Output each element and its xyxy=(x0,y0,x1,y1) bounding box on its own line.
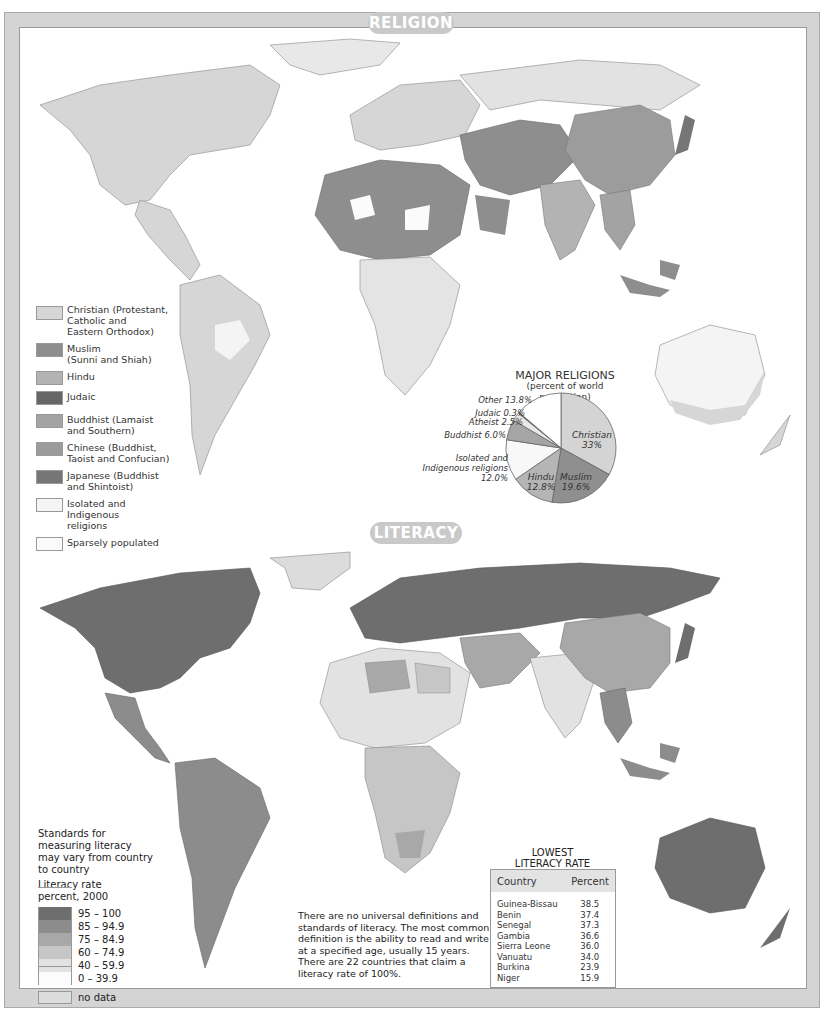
literacy-legend-note: Standards for measuring literacy may var… xyxy=(38,828,153,876)
swatch-chinese xyxy=(36,442,63,456)
pie-inlabel-christian: Christian33% xyxy=(567,430,617,450)
legend-item-hindu: Hindu xyxy=(36,371,176,385)
legend-item-chinese: Chinese (Buddhist,Taoist and Confucian) xyxy=(36,442,176,464)
pie-label-other: Other 13.8% xyxy=(462,395,532,405)
table-row: Sierra Leone36.0 xyxy=(491,941,616,952)
legend-item-judaic: Judaic xyxy=(36,391,176,405)
swatch-judaic xyxy=(36,391,63,405)
legend-item-75-85: 75 – 84.9 xyxy=(38,933,153,946)
table-row: Senegal37.3 xyxy=(491,920,616,931)
legend-item-85-95: 85 – 94.9 xyxy=(38,920,153,933)
swatch-muslim xyxy=(36,343,63,357)
legend-item-no-data: no data xyxy=(38,991,153,1004)
table-row: Niger15.9 xyxy=(491,973,616,988)
legend-item-muslim: Muslim(Sunni and Shiah) xyxy=(36,343,176,365)
literacy-note: There are no universal definitions and s… xyxy=(298,910,498,979)
table-header-row: Country Percent xyxy=(491,870,616,893)
table-row: Guinea-Bissau38.5 xyxy=(491,899,616,910)
legend-item-0-40: 0 – 39.9 xyxy=(38,972,153,985)
swatch-christian xyxy=(36,306,63,320)
pie-label-isolated: Isolated and Indigenous religions 12.0% xyxy=(414,453,508,483)
legend-item-buddhist: Buddhist (Lamaistand Southern) xyxy=(36,414,176,436)
table-row: Burkina23.9 xyxy=(491,962,616,973)
swatch-hindu xyxy=(36,371,63,385)
legend-item-40-60: 40 – 59.9 xyxy=(38,959,153,972)
literacy-legend-title: Literacy ratepercent, 2000 xyxy=(38,879,153,903)
religion-legend: Christian (Protestant,Catholic andEaster… xyxy=(36,304,176,557)
swatch-japanese xyxy=(36,470,63,484)
swatch-buddhist xyxy=(36,414,63,428)
pie-label-buddhist: Buddhist 6.0% xyxy=(440,430,506,440)
legend-item-95-100: 95 – 100 xyxy=(38,907,153,920)
legend-item-60-75: 60 – 74.9 xyxy=(38,946,153,959)
lowest-literacy-table: Country Percent Guinea-Bissau38.5 Benin3… xyxy=(490,869,616,988)
pie-label-atheist: Atheist 2.5% xyxy=(458,417,523,427)
literacy-legend: Standards for measuring literacy may var… xyxy=(38,828,153,1004)
pie-inlabel-hindu: Hindu12.8% xyxy=(523,472,559,492)
legend-item-christian: Christian (Protestant,Catholic andEaster… xyxy=(36,304,176,337)
pie-inlabel-muslim: Muslim19.6% xyxy=(556,472,596,492)
header-percent: Percent xyxy=(565,870,616,893)
lowest-literacy-title: LOWESTLITERACY RATE xyxy=(490,847,615,869)
legend-item-isolated: Isolated and Indigenousreligions xyxy=(36,498,176,531)
religion-title: RELIGION xyxy=(368,12,454,34)
table-row: Vanuatu34.0 xyxy=(491,952,616,963)
table-row: Gambia36.6 xyxy=(491,931,616,942)
table-row: Benin37.4 xyxy=(491,910,616,921)
swatch-isolated xyxy=(36,498,63,512)
legend-item-japanese: Japanese (Buddhistand Shintoist) xyxy=(36,470,176,492)
literacy-title: LITERACY xyxy=(370,522,462,544)
header-country: Country xyxy=(491,870,565,893)
